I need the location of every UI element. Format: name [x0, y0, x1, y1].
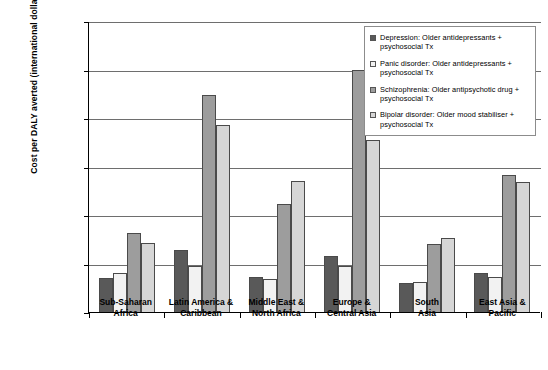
x-axis-tick-label: Middle East & North Africa — [239, 297, 314, 319]
bar-group — [164, 22, 239, 312]
legend-item: Bipolar disorder: Older mood stabiliser … — [370, 110, 530, 129]
bar — [291, 181, 305, 312]
x-axis-tick-label: Sub-Saharan Africa — [88, 297, 163, 319]
bar-group — [239, 22, 314, 312]
legend-swatch-icon — [370, 35, 376, 41]
y-axis-title: Cost per DALY averted (international dol… — [29, 0, 39, 211]
legend-item: Depression: Older antidepressants + psyc… — [370, 33, 530, 52]
bar-group — [89, 22, 164, 312]
x-axis-tick-label: Latin America & Caribbean — [163, 297, 238, 319]
bar-chart: Cost per DALY averted (international dol… — [0, 0, 548, 370]
legend-label: Schizophrenia: Older antipsychotic drug … — [380, 85, 530, 104]
bar — [202, 95, 216, 312]
bar — [502, 175, 516, 312]
legend-item: Schizophrenia: Older antipsychotic drug … — [370, 85, 530, 104]
legend-swatch-icon — [370, 87, 376, 93]
x-axis-tick-label: South Asia — [389, 297, 464, 319]
bar — [516, 182, 530, 312]
legend-label: Depression: Older antidepressants + psyc… — [380, 33, 530, 52]
legend-swatch-icon — [370, 61, 376, 67]
x-axis-tick-label: East Asia & Pacific — [465, 297, 540, 319]
legend-label: Panic disorder: Older antidepressants + … — [380, 59, 530, 78]
bar — [366, 140, 380, 312]
legend-swatch-icon — [370, 112, 376, 118]
x-axis-tick-mark — [541, 312, 542, 318]
legend-label: Bipolar disorder: Older mood stabiliser … — [380, 110, 530, 129]
legend-item: Panic disorder: Older antidepressants + … — [370, 59, 530, 78]
bar — [216, 125, 230, 312]
x-axis-tick-label: Europe & Central Asia — [314, 297, 389, 319]
chart-legend: Depression: Older antidepressants + psyc… — [364, 26, 536, 136]
bar — [277, 204, 291, 312]
